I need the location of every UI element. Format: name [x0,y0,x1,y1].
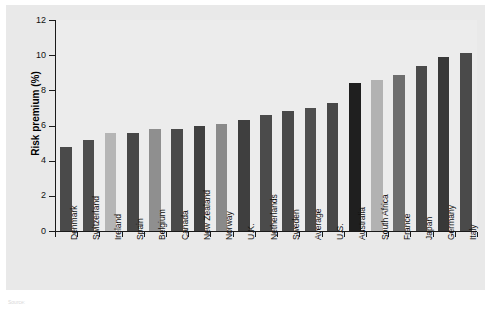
x-axis-category-label: Average [314,208,323,240]
y-axis-tick-label: 2 [16,191,46,200]
y-axis-tick-label-text: 12 [20,16,46,25]
bar [416,66,428,231]
bar [238,120,250,231]
x-axis-category-label: Norway [225,211,234,240]
x-axis-category-label: Belgium [158,209,167,240]
x-axis-category-label: Switzerland [92,196,101,240]
y-axis-tick-label: 12 [16,16,46,25]
y-axis-tick-label-text: 0 [20,227,46,236]
chart-figure: 024681012 Risk premium (%) DenmarkSwitze… [0,0,495,310]
bars-layer [55,20,477,231]
x-axis-category-label: Netherlands [270,194,279,240]
x-axis-category-label: France [403,214,412,240]
y-axis-title: Risk premium (%) [30,44,41,184]
bar [327,103,339,231]
x-axis-category-label: Canada [181,210,190,240]
bar [127,133,139,231]
x-axis-category-label: Germany [447,205,456,240]
bar [460,53,472,231]
y-axis-tick-label: 0 [16,227,46,236]
y-axis-tick-label-text: 2 [20,191,46,200]
x-axis-category-label: New Zealand [203,190,212,240]
x-axis-category-label: South Africa [381,194,390,240]
x-axis-category-label: U.S. [336,223,345,240]
x-axis-tick [55,232,56,237]
x-axis-category-label: Italy [469,224,478,240]
x-axis-category-label: Japan [425,217,434,240]
x-axis-category-label: U.K. [247,223,256,240]
x-axis-category-label: Sweden [292,209,301,240]
x-axis-category-label: Denmark [70,206,79,240]
x-axis-category-label: Ireland [114,214,123,240]
x-axis-category-label: Spain [136,218,145,240]
x-axis-category-label: Australia [358,207,367,240]
footnote: Source: [8,299,25,305]
bar [393,75,405,231]
